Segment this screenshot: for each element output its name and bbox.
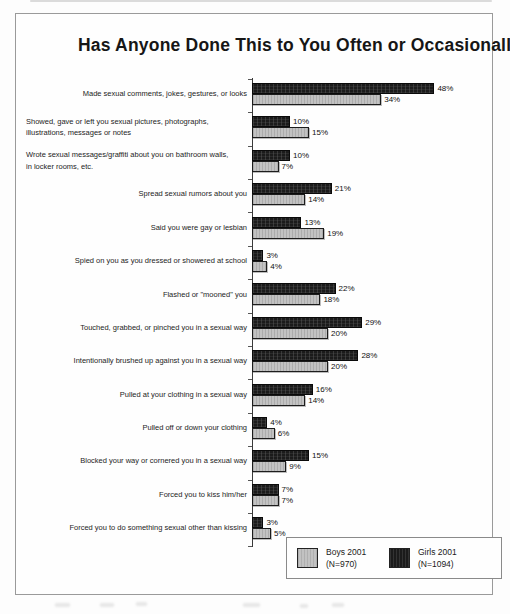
girls-value-label: 29% <box>365 318 381 327</box>
legend-text-girls: Girls 2001 (N=1094) <box>418 546 457 571</box>
boys-value-label: 20% <box>331 362 347 371</box>
girls-barline: 22% <box>252 283 355 294</box>
boys-value-label: 9% <box>289 462 301 471</box>
boys-bar <box>252 194 305 205</box>
chart-row: Made sexual comments, jokes, gestures, o… <box>16 83 492 105</box>
chart-frame: Has Anyone Done This to You Often or Occ… <box>15 13 493 595</box>
category-label: Spread sexual rumors about you <box>16 188 252 200</box>
bar-pair: 21% 14% <box>252 183 351 205</box>
category-label: Pulled off or down your clothing <box>16 422 252 434</box>
chart-title: Has Anyone Done This to You Often or Occ… <box>78 35 488 56</box>
girls-barline: 28% <box>252 350 377 361</box>
category-label: Forced you to do something sexual other … <box>16 522 252 534</box>
category-label: Intentionally brushed up against you in … <box>16 355 252 367</box>
girls-value-label: 21% <box>335 184 351 193</box>
boys-bar <box>252 328 328 339</box>
girls-bar <box>252 250 263 261</box>
girls-value-label: 4% <box>270 418 282 427</box>
bar-pair: 10% 15% <box>252 116 328 138</box>
girls-barline: 15% <box>252 450 328 461</box>
bar-pair: 48% 34% <box>252 83 453 105</box>
category-label: Flashed or "mooned" you <box>16 289 252 301</box>
category-label: Blocked your way or cornered you in a se… <box>16 455 252 467</box>
scan-artifact <box>30 0 492 2</box>
legend-swatch-boys <box>297 548 318 568</box>
chart-row: Flashed or "mooned" you 22% 18% <box>16 283 492 305</box>
legend-n-girls: (N=1094) <box>418 558 457 570</box>
bar-pair: 10% 7% <box>252 150 309 172</box>
chart-row: Forced you to kiss him/her 7% 7% <box>16 484 492 506</box>
page: Has Anyone Done This to You Often or Occ… <box>0 0 510 614</box>
girls-bar <box>252 417 267 428</box>
bar-pair: 28% 20% <box>252 350 377 372</box>
girls-value-label: 3% <box>266 251 278 260</box>
chart-row: Spread sexual rumors about you 21% 14% <box>16 183 492 205</box>
bar-pair: 3% 5% <box>252 517 286 539</box>
girls-value-label: 28% <box>361 351 377 360</box>
chart-row: Touched, grabbed, or pinched you in a se… <box>16 317 492 339</box>
girls-bar <box>252 150 290 161</box>
girls-barline: 10% <box>252 116 328 127</box>
girls-bar <box>252 83 434 94</box>
boys-barline: 7% <box>252 495 293 506</box>
bar-pair: 29% 20% <box>252 317 381 339</box>
chart-row: Wrote sexual messages/graffiti about you… <box>16 150 492 172</box>
boys-value-label: 6% <box>278 429 290 438</box>
boys-bar <box>252 495 279 506</box>
category-label: Forced you to kiss him/her <box>16 489 252 501</box>
chart-row: Said you were gay or lesbian 13% 19% <box>16 217 492 239</box>
legend-label-boys: Boys 2001 <box>326 546 366 558</box>
legend-n-boys: (N=970) <box>326 558 366 570</box>
boys-bar <box>252 528 271 539</box>
boys-bar <box>252 294 320 305</box>
girls-barline: 3% <box>252 517 286 528</box>
boys-value-label: 4% <box>270 262 282 271</box>
girls-value-label: 10% <box>293 117 309 126</box>
boys-barline: 15% <box>252 127 328 138</box>
girls-barline: 7% <box>252 484 293 495</box>
girls-bar <box>252 183 332 194</box>
boys-bar <box>252 261 267 272</box>
scan-artifact <box>100 603 114 607</box>
boys-value-label: 14% <box>308 396 324 405</box>
bar-pair: 13% 19% <box>252 217 343 239</box>
girls-bar <box>252 450 309 461</box>
girls-value-label: 7% <box>282 485 294 494</box>
boys-bar <box>252 461 286 472</box>
boys-barline: 19% <box>252 228 343 239</box>
boys-value-label: 34% <box>384 95 400 104</box>
bar-pair: 16% 14% <box>252 384 332 406</box>
boys-barline: 4% <box>252 261 282 272</box>
chart-row: Spied on you as you dressed or showered … <box>16 250 492 272</box>
legend-label-girls: Girls 2001 <box>418 546 457 558</box>
boys-barline: 18% <box>252 294 355 305</box>
chart-row: Blocked your way or cornered you in a se… <box>16 450 492 472</box>
boys-bar <box>252 395 305 406</box>
girls-barline: 3% <box>252 250 282 261</box>
boys-bar <box>252 94 381 105</box>
girls-barline: 4% <box>252 417 289 428</box>
girls-value-label: 3% <box>266 518 278 527</box>
bar-pair: 7% 7% <box>252 484 293 506</box>
scan-artifact <box>55 603 70 607</box>
girls-bar <box>252 384 313 395</box>
legend-swatch-girls <box>389 548 410 568</box>
girls-bar <box>252 350 358 361</box>
boys-value-label: 5% <box>274 529 286 538</box>
category-label: Pulled at your clothing in a sexual way <box>16 389 252 401</box>
girls-value-label: 48% <box>437 84 453 93</box>
boys-value-label: 18% <box>323 295 339 304</box>
boys-bar <box>252 228 324 239</box>
chart-row: Pulled at your clothing in a sexual way … <box>16 384 492 406</box>
bar-pair: 15% 9% <box>252 450 328 472</box>
boys-value-label: 7% <box>282 496 294 505</box>
boys-value-label: 7% <box>282 162 294 171</box>
boys-value-label: 20% <box>331 329 347 338</box>
boys-barline: 5% <box>252 528 286 539</box>
boys-barline: 20% <box>252 361 377 372</box>
boys-bar <box>252 361 328 372</box>
scan-artifact <box>332 603 344 607</box>
girls-barline: 16% <box>252 384 332 395</box>
scan-artifact <box>243 603 260 607</box>
boys-bar <box>252 127 309 138</box>
